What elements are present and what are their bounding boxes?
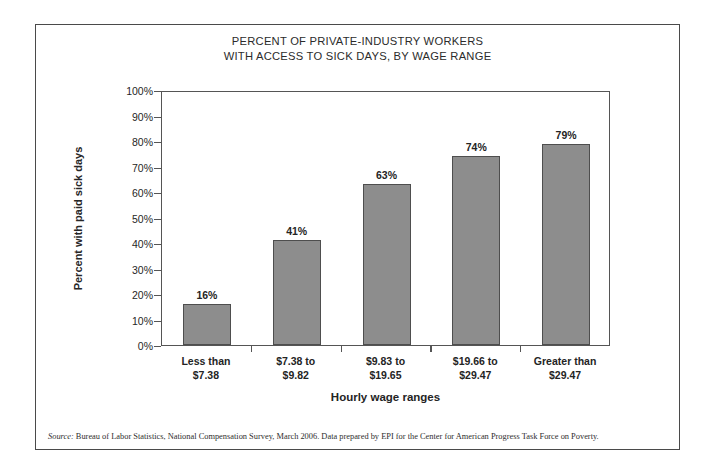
x-tick-label: $19.66 to$29.47 (430, 354, 520, 382)
bar-column: 74% (452, 92, 500, 345)
source-text: Bureau of Labor Statistics, National Com… (74, 432, 599, 441)
x-tick-mark (430, 346, 431, 352)
y-tick-label: 50% (98, 213, 153, 225)
x-axis-title: Hourly wage ranges (161, 391, 610, 403)
x-tick-label: Less than$7.38 (161, 354, 251, 382)
y-tick-label: 10% (98, 315, 153, 327)
y-tick-label: 70% (98, 162, 153, 174)
x-tick-label-line: Less than (161, 354, 251, 368)
bar-column: 63% (363, 92, 411, 345)
bar-value-label: 41% (251, 225, 343, 237)
y-tick-label: 40% (98, 238, 153, 250)
y-tick-mark (154, 321, 161, 322)
x-tick-label-line: $29.47 (520, 368, 610, 382)
bar[interactable] (542, 144, 590, 345)
y-tick-label: 30% (98, 264, 153, 276)
bar-value-label: 63% (341, 169, 433, 181)
x-tick-label-line: $19.66 to (430, 354, 520, 368)
x-tick-label-line: $9.83 to (341, 354, 431, 368)
x-tick-mark (520, 346, 521, 352)
x-axis-tick-labels: Less than$7.38$7.38 to$9.82$9.83 to$19.6… (161, 354, 610, 388)
bar[interactable] (452, 156, 500, 345)
x-tick-label-line: $7.38 to (251, 354, 341, 368)
y-tick-mark (154, 346, 161, 347)
bar-value-label: 74% (430, 141, 522, 153)
y-tick-label: 60% (98, 187, 153, 199)
y-axis-tick-labels: 0%10%20%30%40%50%60%70%80%90%100% (98, 91, 153, 346)
chart-title-line-1: PERCENT OF PRIVATE-INDUSTRY WORKERS (36, 34, 679, 49)
x-tick-label-line: $19.65 (341, 368, 431, 382)
source-label: Source: (48, 432, 74, 441)
y-tick-mark (154, 295, 161, 296)
y-tick-mark (154, 219, 161, 220)
y-tick-mark (154, 91, 161, 92)
y-tick-label: 0% (98, 340, 153, 352)
y-tick-mark (154, 142, 161, 143)
y-tick-mark (154, 244, 161, 245)
x-tick-label-line: $9.82 (251, 368, 341, 382)
plot-area: 16%41%63%74%79% (161, 91, 610, 346)
y-tick-label: 90% (98, 111, 153, 123)
bar[interactable] (273, 240, 321, 345)
bar[interactable] (363, 184, 411, 345)
y-tick-mark (154, 168, 161, 169)
bar-column: 41% (273, 92, 321, 345)
x-tick-mark (341, 346, 342, 352)
x-tick-mark (251, 346, 252, 352)
x-tick-label: Greater than$29.47 (520, 354, 610, 382)
y-tick-label: 100% (98, 85, 153, 97)
y-tick-mark (154, 270, 161, 271)
chart-title-line-2: WITH ACCESS TO SICK DAYS, BY WAGE RANGE (36, 49, 679, 64)
bar-column: 16% (183, 92, 231, 345)
y-axis-title: Percent with paid sick days (69, 91, 87, 346)
x-tick-label: $7.38 to$9.82 (251, 354, 341, 382)
x-tick-label-line: $29.47 (430, 368, 520, 382)
y-tick-mark (154, 117, 161, 118)
x-tick-label: $9.83 to$19.65 (341, 354, 431, 382)
y-tick-label: 80% (98, 136, 153, 148)
figure-frame: PERCENT OF PRIVATE-INDUSTRY WORKERS WITH… (35, 24, 680, 450)
y-tick-label: 20% (98, 289, 153, 301)
bar-value-label: 16% (161, 289, 253, 301)
x-tick-label-line: $7.38 (161, 368, 251, 382)
bar[interactable] (183, 304, 231, 345)
y-tick-mark (154, 193, 161, 194)
source-note: Source: Bureau of Labor Statistics, Nati… (48, 431, 669, 442)
bar-column: 79% (542, 92, 590, 345)
x-tick-label-line: Greater than (520, 354, 610, 368)
chart-title: PERCENT OF PRIVATE-INDUSTRY WORKERS WITH… (36, 34, 679, 64)
bar-value-label: 79% (520, 129, 612, 141)
